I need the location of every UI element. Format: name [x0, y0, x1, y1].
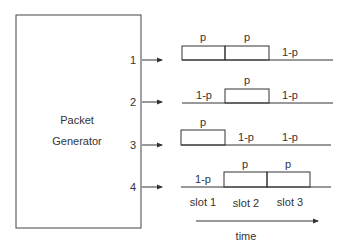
slot-prob: 1-p — [282, 131, 298, 143]
slot-prob: p — [244, 31, 250, 43]
slot-prob: p — [200, 116, 206, 128]
packet-slot — [224, 172, 267, 187]
packet-slot — [182, 46, 225, 60]
timeline-row-2: 1-p p 1-p — [182, 74, 333, 103]
packet-slot — [225, 89, 269, 103]
port-1: 1 — [130, 54, 162, 66]
time-label: time — [236, 230, 257, 242]
slot-prob: 1-p — [282, 46, 298, 58]
slot-label-3: slot 3 — [277, 196, 303, 208]
slot-prob: p — [200, 31, 206, 43]
slot-prob: p — [244, 74, 250, 86]
packet-slot — [225, 46, 269, 60]
packet-generator-diagram: Packet Generator 1 2 3 4 p p 1-p 1-p p 1… — [0, 0, 343, 252]
port-3: 3 — [130, 139, 162, 151]
packet-slot — [181, 130, 225, 145]
generator-label-line2: Generator — [52, 135, 102, 147]
packet-slot — [267, 172, 310, 187]
slot-label-1: slot 1 — [190, 196, 216, 208]
slot-label-2: slot 2 — [233, 197, 259, 209]
port-label: 2 — [130, 96, 136, 108]
slot-prob: 1-p — [195, 173, 211, 185]
generator-label-line1: Packet — [60, 114, 94, 126]
slot-prob: p — [285, 158, 291, 170]
port-4: 4 — [130, 181, 162, 193]
slot-prob: p — [242, 158, 248, 170]
port-2: 2 — [130, 96, 162, 108]
slot-prob: 1-p — [238, 131, 254, 143]
timeline-row-4: 1-p p p — [181, 158, 331, 187]
port-label: 4 — [130, 181, 136, 193]
slot-prob: 1-p — [196, 89, 212, 101]
timeline-row-3: p 1-p 1-p — [181, 116, 331, 145]
port-label: 3 — [130, 139, 136, 151]
slot-prob: 1-p — [282, 89, 298, 101]
port-label: 1 — [130, 54, 136, 66]
timeline-row-1: p p 1-p — [182, 31, 333, 60]
